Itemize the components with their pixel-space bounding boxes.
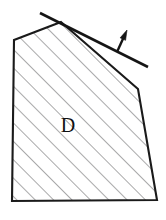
normal-arrow-shaft [117,37,124,52]
region-label: D [61,114,75,136]
normal-arrow-head [120,30,127,40]
geometry-diagram: D [0,0,166,220]
figure-canvas: D [0,0,166,220]
